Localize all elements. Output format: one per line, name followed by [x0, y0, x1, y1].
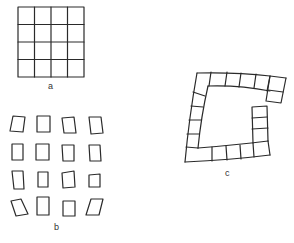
panel-a-label: a: [48, 82, 53, 91]
panel-c-chain: [185, 72, 286, 162]
panel-a-grid: [18, 7, 84, 77]
panel-b-label: b: [54, 223, 59, 232]
diagram-figure: [0, 0, 294, 243]
panel-b-squares: [10, 116, 103, 216]
panel-c-label: c: [225, 169, 230, 178]
